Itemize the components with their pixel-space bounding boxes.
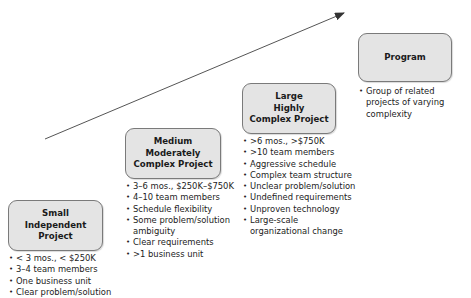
stage-bullets-program: Group of related projects of varying com… <box>359 86 469 120</box>
bullet-item: Schedule flexibility <box>126 204 238 215</box>
stage-bullets-medium: 3–6 mos., $250K–$750K 4–10 team members … <box>126 181 238 260</box>
bullet-item: One business unit <box>9 276 111 287</box>
stage-bullets-large: >6 mos., >$750K >10 team members Aggress… <box>243 136 355 238</box>
stage-title-line: Complex Project <box>133 159 212 171</box>
bullet-item: Group of related projects of varying com… <box>359 86 469 120</box>
stage-title-line: Small <box>25 208 87 220</box>
bullet-item: 4–10 team members <box>126 192 238 203</box>
stage-title-line: Project <box>25 231 87 243</box>
bullet-item: Aggressive schedule <box>243 159 355 170</box>
stage-box-medium: Medium Moderately Complex Project <box>125 128 221 179</box>
stage-title-line: Large <box>249 91 328 103</box>
stage-box-small: Small Independent Project <box>8 200 103 251</box>
stage-title-line: Moderately <box>133 148 212 160</box>
bullet-item: 3–6 mos., $250K–$750K <box>126 181 238 192</box>
bullet-item: Clear requirements <box>126 237 238 248</box>
bullet-item: Unproven technology <box>243 204 355 215</box>
bullet-item: >6 mos., >$750K <box>243 136 355 147</box>
bullet-item: Undefined requirements <box>243 192 355 203</box>
stage-box-program: Program <box>358 33 452 82</box>
stage-title-line: Complex Project <box>249 114 328 126</box>
stage-title-line: Medium <box>133 136 212 148</box>
bullet-item: Some problem/solution ambiguity <box>126 215 238 238</box>
bullet-item: < 3 mos., < $250K <box>9 253 111 264</box>
stage-box-large: Large Highly Complex Project <box>242 83 336 134</box>
bullet-item: Complex team structure <box>243 170 355 181</box>
stage-title-line: Program <box>384 52 426 64</box>
stage-title-line: Independent <box>25 220 87 232</box>
stage-title-line: Highly <box>249 103 328 115</box>
bullet-item: Large-scale organizational change <box>243 215 355 238</box>
bullet-item: >1 business unit <box>126 249 238 260</box>
bullet-item: Unclear problem/solution <box>243 181 355 192</box>
bullet-item: 3–4 team members <box>9 264 111 275</box>
stage-bullets-small: < 3 mos., < $250K 3–4 team members One b… <box>9 253 111 298</box>
bullet-item: Clear problem/solution <box>9 287 111 298</box>
bullet-item: >10 team members <box>243 147 355 158</box>
